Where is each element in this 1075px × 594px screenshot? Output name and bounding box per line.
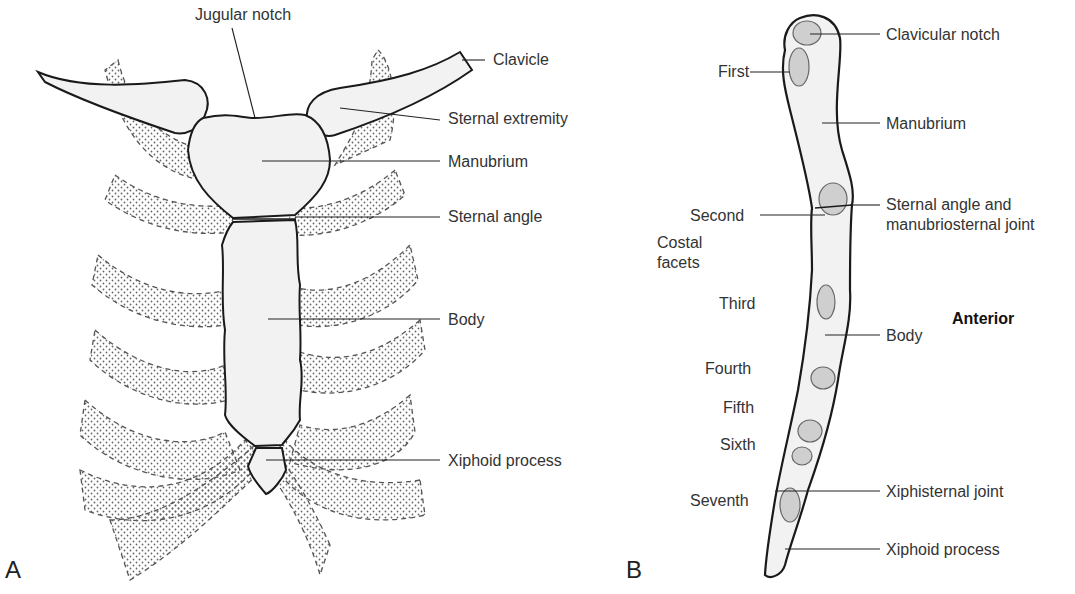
label-jugular-notch: Jugular notch [195, 6, 291, 24]
sternum-illustration [0, 0, 1075, 594]
panel-letter-b: B [626, 556, 642, 584]
label-clavicular-notch: Clavicular notch [886, 26, 1000, 44]
panel-letter-a: A [5, 556, 21, 584]
label-manubrium-b: Manubrium [886, 115, 966, 133]
label-facet-first: First [718, 63, 749, 81]
label-manubrium-a: Manubrium [448, 153, 528, 171]
lateral-sternum-shape [765, 15, 853, 577]
label-xiphisternal-joint: Xiphisternal joint [886, 483, 1003, 501]
label-xiphoid-process-a: Xiphoid process [448, 452, 562, 470]
label-sternal-extremity: Sternal extremity [448, 110, 568, 128]
manubrium-shape [188, 114, 330, 218]
label-facet-third: Third [719, 295, 755, 313]
label-sternal-angle-line2: manubriosternal joint [886, 216, 1035, 234]
body-shape [222, 220, 302, 446]
label-sternal-angle-line1: Sternal angle and [886, 196, 1011, 214]
label-costal-facets-line2: facets [657, 254, 700, 272]
label-body-a: Body [448, 311, 484, 329]
label-sternal-angle: Sternal angle [448, 208, 542, 226]
label-facet-sixth: Sixth [720, 436, 756, 454]
label-xiphoid-process-b: Xiphoid process [886, 541, 1000, 559]
label-facet-fourth: Fourth [705, 360, 751, 378]
label-facet-second: Second [690, 207, 744, 225]
label-facet-seventh: Seventh [690, 492, 749, 510]
label-costal-facets-line1: Costal [657, 234, 702, 252]
label-clavicle: Clavicle [493, 51, 549, 69]
label-facet-fifth: Fifth [723, 399, 754, 417]
label-anterior: Anterior [952, 310, 1014, 328]
label-body-b: Body [886, 327, 922, 345]
